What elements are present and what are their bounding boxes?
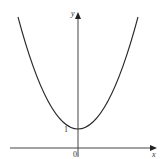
origin-label: 0 bbox=[73, 150, 77, 159]
x-axis-label: x bbox=[151, 150, 156, 159]
y-axis-arrow-icon bbox=[75, 12, 81, 19]
parabola-figure: y x 0 1 bbox=[0, 0, 164, 159]
y-intercept-label: 1 bbox=[64, 125, 68, 134]
chart-canvas: y x 0 1 bbox=[0, 0, 164, 159]
y-axis-label: y bbox=[70, 9, 75, 18]
